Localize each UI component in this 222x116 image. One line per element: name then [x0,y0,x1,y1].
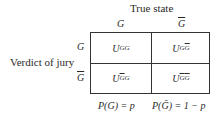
probability-not-guilty: P(Ḡ) = 1 − p [152,100,206,111]
column-header-title: True state [130,2,173,14]
row-header-title: Verdict of jury [10,56,74,68]
cell-u-notg-notg: UGG [151,63,211,93]
cell-u-g-notg: UGG [151,33,211,63]
column-label-not-g: G [178,18,185,29]
column-label-g: G [117,18,124,29]
row-label-g: G [77,41,84,52]
row-label-not-g: G [77,72,84,83]
cell-u-notg-g: UGG [91,63,151,93]
payoff-matrix: UGG UGG UGG UGG [90,32,210,94]
cell-u-gg: UGG [91,33,151,63]
probability-guilty: P(G) = p [98,100,135,111]
